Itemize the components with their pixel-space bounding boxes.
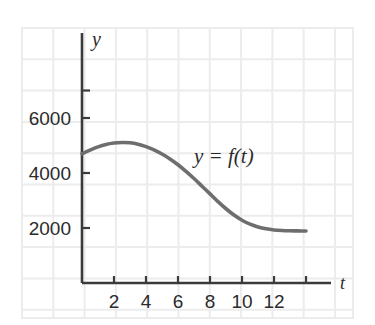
y-tick-label: 2000 — [29, 218, 71, 239]
x-tick-label: 10 — [231, 291, 252, 312]
x-tick-label: 4 — [141, 291, 152, 312]
x-tick-label: 8 — [205, 291, 216, 312]
curve-equation-label: y = f(t) — [192, 144, 254, 168]
graph-canvas: 24681012200040006000 y t y = f(t) — [0, 0, 375, 325]
x-tick-label: 12 — [263, 291, 284, 312]
figure-container: 24681012200040006000 y t y = f(t) — [0, 0, 375, 325]
y-tick-label: 6000 — [29, 108, 71, 129]
y-tick-label: 4000 — [29, 163, 71, 184]
y-axis-label: y — [90, 28, 101, 51]
x-tick-label: 2 — [109, 291, 120, 312]
x-tick-label: 6 — [173, 291, 184, 312]
